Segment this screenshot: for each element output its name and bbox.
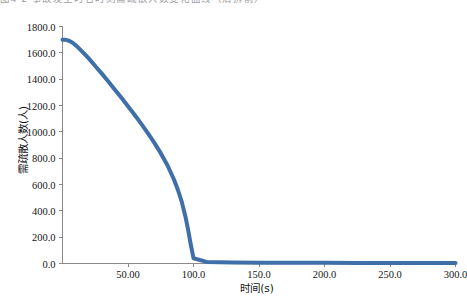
y-axis-title: 需疏散人数(人) <box>15 106 30 174</box>
chart-plot-area <box>0 0 467 306</box>
y-tick-label: 400.0 <box>0 205 56 216</box>
y-tick-label: 0.0 <box>0 258 56 269</box>
y-tick-label: 200.0 <box>0 232 56 243</box>
y-tick-label: 1800.0 <box>0 21 56 32</box>
y-tick-label: 600.0 <box>0 179 56 190</box>
x-axis-title: 时间(s) <box>240 280 274 295</box>
y-tick-label: 1400.0 <box>0 74 56 85</box>
chart-figure: 0.0200.0400.0600.0800.01000.01200.01400.… <box>0 0 467 306</box>
x-tick-label: 50.00 <box>116 269 140 280</box>
x-tick-label: 200.0 <box>313 269 337 280</box>
y-axis-ticks <box>59 27 63 264</box>
x-tick-label: 250.0 <box>378 269 402 280</box>
series-line-evacuees <box>63 40 456 263</box>
x-tick-label: 100.0 <box>182 269 206 280</box>
x-tick-label: 150.0 <box>247 269 271 280</box>
x-tick-label: 300.0 <box>444 269 467 280</box>
y-tick-label: 1600.0 <box>0 47 56 58</box>
